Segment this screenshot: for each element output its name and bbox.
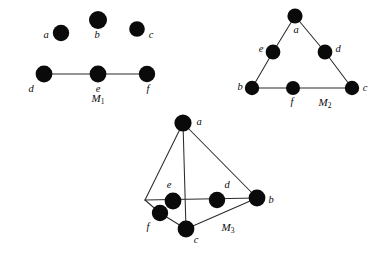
graph-m1: a b c d e f M1 bbox=[28, 11, 155, 106]
caption-sub-m1: 1 bbox=[101, 97, 105, 106]
node-label-f: f bbox=[147, 221, 152, 232]
node-label-c: c bbox=[149, 29, 154, 40]
node-a[interactable] bbox=[53, 25, 69, 41]
edge-junction-b bbox=[145, 198, 257, 200]
node-e[interactable] bbox=[90, 66, 107, 83]
node-label-f: f bbox=[291, 96, 296, 107]
node-label-d: d bbox=[28, 83, 34, 94]
node-f[interactable] bbox=[152, 205, 168, 221]
node-label-c: c bbox=[194, 234, 199, 245]
node-b[interactable] bbox=[249, 190, 266, 207]
node-f[interactable] bbox=[286, 81, 300, 95]
node-d[interactable] bbox=[36, 66, 53, 83]
node-b[interactable] bbox=[89, 11, 107, 29]
node-label-a: a bbox=[43, 29, 48, 40]
node-b[interactable] bbox=[245, 81, 259, 95]
node-label-c: c bbox=[363, 82, 368, 93]
m3-labels: a e d b f c bbox=[147, 116, 274, 245]
node-label-b: b bbox=[237, 81, 242, 92]
graph-caption-m1: M1 bbox=[91, 92, 105, 106]
node-f[interactable] bbox=[139, 66, 155, 82]
caption-sub-m3: 3 bbox=[231, 226, 235, 235]
node-c[interactable] bbox=[129, 21, 145, 37]
edge-a-junction bbox=[145, 123, 183, 200]
graph-figure: a b c d e f M1 bbox=[0, 0, 379, 257]
graph-canvas: a b c d e f M1 bbox=[0, 0, 379, 257]
node-label-a: a bbox=[293, 24, 298, 35]
node-a[interactable] bbox=[287, 8, 302, 23]
node-label-d: d bbox=[224, 179, 230, 190]
m1-labels: a b c d e f bbox=[28, 29, 153, 94]
node-label-a: a bbox=[196, 116, 201, 127]
m2-labels: a e d b f c bbox=[237, 24, 367, 107]
node-label-f: f bbox=[147, 83, 152, 94]
node-a[interactable] bbox=[174, 114, 191, 131]
graph-caption-m2: M2 bbox=[318, 96, 332, 110]
node-e[interactable] bbox=[266, 45, 281, 60]
node-label-b: b bbox=[268, 194, 273, 205]
node-d[interactable] bbox=[318, 45, 333, 60]
graph-m2: a e d b f c M2 bbox=[237, 8, 367, 109]
node-c[interactable] bbox=[178, 221, 195, 238]
node-label-e: e bbox=[259, 43, 264, 54]
edge-a-c bbox=[183, 123, 186, 229]
node-label-e: e bbox=[167, 179, 172, 190]
graph-m3: a e d b f c M3 bbox=[145, 114, 274, 245]
node-label-b: b bbox=[94, 29, 99, 40]
caption-sub-m2: 2 bbox=[328, 101, 332, 110]
node-label-d: d bbox=[335, 43, 341, 54]
graph-caption-m3: M3 bbox=[221, 221, 235, 235]
m1-nodes bbox=[36, 11, 156, 82]
edge-a-b bbox=[183, 123, 257, 198]
node-c[interactable] bbox=[345, 81, 359, 95]
node-d[interactable] bbox=[209, 192, 225, 208]
node-e[interactable] bbox=[165, 193, 182, 210]
